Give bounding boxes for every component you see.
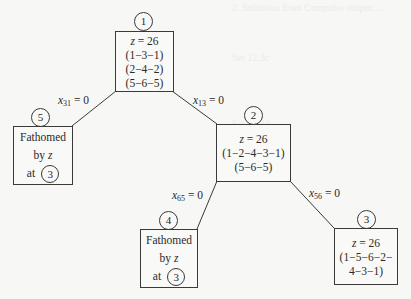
node-2-subtour: (1−2−4−3−1) bbox=[222, 146, 284, 160]
edge-label-x31: x31 = 0 bbox=[58, 94, 89, 108]
node-5-at: at3 bbox=[27, 164, 59, 183]
ref-node-3-circle: 3 bbox=[167, 268, 185, 286]
node-5[interactable]: Fathomed by z at3 bbox=[13, 126, 73, 185]
node-4-fathomed: Fathomed bbox=[146, 231, 192, 249]
edge-label-x65: x65 = 0 bbox=[172, 189, 203, 203]
edge-label-x13: x13 = 0 bbox=[193, 94, 224, 108]
branch-and-bound-tree: 2. Solutions from Computer output: ... S… bbox=[0, 0, 411, 299]
node-3-subtour: (1−5−6−2− bbox=[340, 250, 393, 264]
node-4-by-z: by z bbox=[160, 249, 179, 267]
node-5-by-z: by z bbox=[34, 146, 53, 164]
node-1[interactable]: z = 26 (1−3−1) (2−4−2) (5−6−5) bbox=[115, 31, 174, 92]
node-number-1: 1 bbox=[134, 12, 153, 31]
node-2[interactable]: z = 26 (1−2−4−3−1) (5−6−5) bbox=[216, 124, 291, 182]
ref-node-3-circle: 3 bbox=[41, 165, 59, 183]
node-2-subtour: (5−6−5) bbox=[235, 160, 273, 174]
node-number-2: 2 bbox=[244, 106, 263, 125]
node-1-z: z = 26 bbox=[130, 34, 158, 48]
node-3-subtour: 4−3−1) bbox=[349, 264, 383, 278]
node-1-subtour: (1−3−1) bbox=[126, 48, 164, 62]
node-2-z: z = 26 bbox=[239, 132, 267, 146]
node-1-subtour: (2−4−2) bbox=[126, 62, 164, 76]
node-number-4: 4 bbox=[159, 211, 178, 230]
node-1-subtour: (5−6−5) bbox=[126, 76, 164, 90]
node-5-fathomed: Fathomed bbox=[20, 128, 66, 146]
node-4-at: at3 bbox=[153, 267, 185, 286]
node-number-5: 5 bbox=[31, 108, 50, 127]
node-3-z: z = 26 bbox=[352, 236, 380, 250]
node-number-3: 3 bbox=[357, 210, 376, 229]
node-4[interactable]: Fathomed by z at3 bbox=[140, 229, 198, 288]
node-3[interactable]: z = 26 (1−5−6−2− 4−3−1) bbox=[334, 228, 398, 285]
edge-label-x56: x56 = 0 bbox=[309, 187, 340, 201]
